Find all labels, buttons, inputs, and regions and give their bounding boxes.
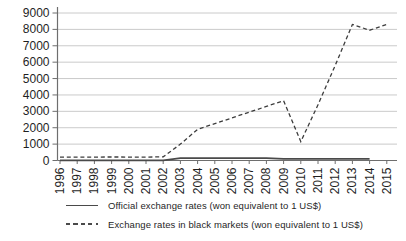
svg-text:3000: 3000 xyxy=(23,104,50,118)
svg-text:2007: 2007 xyxy=(242,167,256,194)
svg-text:1999: 1999 xyxy=(105,167,119,194)
svg-text:2000: 2000 xyxy=(122,167,136,194)
svg-text:2014: 2014 xyxy=(363,167,377,194)
svg-text:9000: 9000 xyxy=(23,6,50,20)
svg-text:7000: 7000 xyxy=(23,39,50,53)
svg-text:0: 0 xyxy=(43,154,50,168)
svg-text:2008: 2008 xyxy=(259,167,273,194)
legend-item-black-market: Exchange rates in black markets (won equ… xyxy=(66,217,406,231)
svg-text:2002: 2002 xyxy=(156,167,170,194)
svg-text:1996: 1996 xyxy=(53,167,67,194)
svg-text:1998: 1998 xyxy=(87,167,101,194)
svg-text:2001: 2001 xyxy=(139,167,153,194)
svg-text:6000: 6000 xyxy=(23,55,50,69)
svg-text:8000: 8000 xyxy=(23,22,50,36)
gridlines xyxy=(58,13,398,144)
svg-text:2012: 2012 xyxy=(328,167,342,194)
dashed-line-swatch-icon xyxy=(66,223,98,225)
svg-text:1000: 1000 xyxy=(23,137,50,151)
svg-text:2005: 2005 xyxy=(208,167,222,194)
svg-text:1997: 1997 xyxy=(70,167,84,194)
solid-line-swatch-icon xyxy=(66,205,98,206)
svg-text:2004: 2004 xyxy=(191,167,205,194)
svg-text:2003: 2003 xyxy=(173,167,187,194)
svg-text:2011: 2011 xyxy=(311,167,325,193)
axes xyxy=(58,7,398,161)
chart-canvas: 0100020003000400050006000700080009000199… xyxy=(0,0,406,196)
svg-text:2010: 2010 xyxy=(294,167,308,194)
y-axis-labels: 0100020003000400050006000700080009000 xyxy=(23,6,58,168)
exchange-rate-chart-figure: 0100020003000400050006000700080009000199… xyxy=(0,0,406,241)
x-axis-labels: 1996199719981999200020012002200320042005… xyxy=(53,161,394,195)
svg-text:4000: 4000 xyxy=(23,88,50,102)
svg-text:2013: 2013 xyxy=(345,167,359,194)
svg-text:2015: 2015 xyxy=(380,167,394,194)
svg-text:2000: 2000 xyxy=(23,121,50,135)
svg-text:2006: 2006 xyxy=(225,167,239,194)
legend-item-official: Official exchange rates (won equivalent … xyxy=(66,198,406,212)
svg-text:5000: 5000 xyxy=(23,72,50,86)
chart-legend: Official exchange rates (won equivalent … xyxy=(66,198,406,231)
legend-label-black-market: Exchange rates in black markets (won equ… xyxy=(108,219,363,230)
series-line-black-market xyxy=(60,24,387,157)
legend-label-official: Official exchange rates (won equivalent … xyxy=(108,200,321,211)
svg-text:2009: 2009 xyxy=(277,167,291,194)
